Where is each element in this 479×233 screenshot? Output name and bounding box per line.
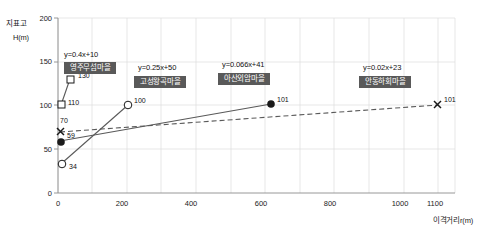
village-label-goseong: 고성왕곡마을 (134, 76, 186, 88)
grid-vertical (58, 18, 455, 193)
trendline-andong (60, 105, 438, 132)
village-label-asan: 아산외암마을 (218, 73, 270, 85)
marker-square-130 (67, 76, 74, 83)
equation-label-asan: y=0.066x+41 (222, 60, 264, 69)
village-label-andong: 안동하회마을 (359, 76, 411, 88)
point-label-59: 59 (67, 132, 75, 139)
point-label-110: 110 (68, 99, 79, 106)
point-label-101-andong: 101 (444, 96, 456, 103)
equation-label-goseong: y=0.25x+50 (138, 63, 176, 72)
equation-label-andong: y=0.02x+23 (363, 63, 401, 72)
marker-x-101-andong (434, 101, 441, 108)
plot-area (0, 0, 479, 233)
point-label-100: 100 (134, 97, 146, 104)
equation-label-yeongju: y=0.4x+10 (64, 50, 98, 59)
point-label-101-asan: 101 (277, 96, 289, 103)
marker-circle-100 (124, 101, 132, 109)
marker-circle-34 (58, 160, 66, 168)
marker-square-110 (58, 101, 65, 108)
chart-container: 지표고 H(m) 이격거리r(m) 200 150 100 50 0 0 200… (0, 0, 479, 233)
marker-circle-59 (57, 138, 65, 146)
marker-circle-101-asan (267, 100, 275, 108)
village-label-yeongju: 영주무섬마을 (64, 62, 116, 74)
axis-lines (58, 18, 455, 193)
point-label-70: 70 (60, 117, 68, 124)
y-axis-ticks (54, 18, 58, 193)
point-label-34: 34 (69, 163, 77, 170)
